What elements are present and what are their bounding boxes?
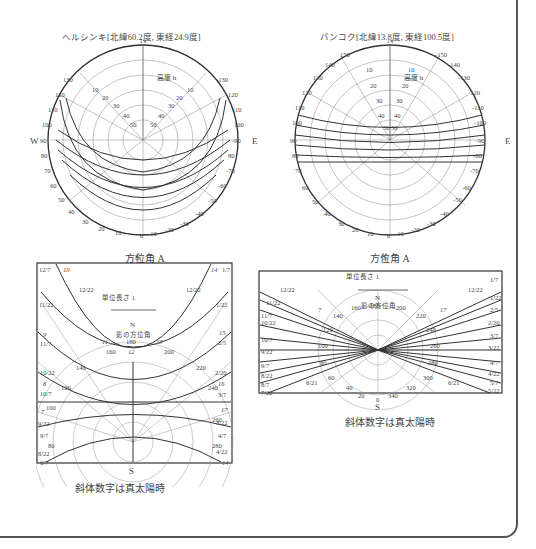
svg-text:10: 10	[187, 86, 194, 93]
svg-text:100: 100	[42, 121, 52, 128]
svg-text:100: 100	[46, 404, 56, 411]
svg-text:280: 280	[212, 442, 222, 449]
svg-text:10: 10	[92, 86, 99, 93]
svg-text:80: 80	[41, 152, 48, 159]
svg-text:-30: -30	[427, 220, 436, 227]
svg-text:140: 140	[333, 312, 343, 319]
svg-text:16: 16	[218, 380, 225, 387]
svg-text:-90: -90	[232, 137, 241, 144]
svg-text:2/20: 2/20	[488, 319, 500, 326]
svg-text:10/7: 10/7	[40, 390, 52, 397]
svg-text:-70: -70	[226, 167, 235, 174]
svg-text:110: 110	[295, 104, 305, 111]
svg-text:2/20: 2/20	[215, 369, 227, 376]
svg-text:80: 80	[320, 359, 327, 366]
svg-text:0: 0	[387, 232, 390, 239]
svg-text:1/7: 1/7	[490, 276, 499, 283]
svg-text:-90: -90	[476, 137, 485, 144]
svg-text:110: 110	[48, 106, 58, 113]
svg-text:9: 9	[43, 331, 47, 338]
svg-text:140: 140	[76, 364, 86, 371]
svg-text:10: 10	[366, 66, 373, 73]
bangkok-sunpath-diagram: N S W E 高度 h 150140130 120110100 908070 …	[290, 40, 530, 265]
svg-text:17: 17	[440, 306, 447, 313]
svg-text:3/7: 3/7	[490, 332, 499, 339]
svg-text:12/22: 12/22	[186, 286, 201, 293]
svg-text:4/22: 4/22	[216, 448, 228, 455]
svg-text:4/22: 4/22	[488, 370, 500, 377]
svg-text:-40: -40	[440, 210, 449, 217]
helsinki-north: N	[140, 40, 147, 45]
svg-text:240: 240	[208, 384, 218, 391]
helsinki-shadow-caption: 斜体数字は真太陽時	[75, 480, 165, 495]
svg-text:260: 260	[212, 416, 222, 423]
svg-text:240: 240	[426, 326, 436, 333]
svg-text:-10: -10	[148, 230, 157, 237]
svg-text:10/7: 10/7	[261, 336, 273, 343]
svg-text:-20: -20	[165, 226, 174, 233]
svg-text:-60: -60	[462, 184, 471, 191]
svg-text:7: 7	[318, 306, 322, 313]
svg-text:S: S	[129, 466, 134, 476]
svg-text:-130: -130	[216, 76, 228, 83]
svg-text:11: 11	[102, 338, 108, 345]
svg-text:50: 50	[383, 124, 390, 131]
svg-text:40: 40	[68, 208, 75, 215]
svg-text:E: E	[505, 136, 511, 146]
svg-text:-120: -120	[468, 89, 480, 96]
svg-text:5/7: 5/7	[490, 379, 499, 386]
svg-text:14: 14	[211, 266, 218, 273]
svg-text:4/7: 4/7	[490, 359, 499, 366]
svg-text:110: 110	[232, 106, 242, 113]
svg-text:90: 90	[290, 137, 297, 144]
svg-text:340: 340	[388, 392, 398, 399]
svg-text:180: 180	[126, 338, 136, 345]
svg-text:-140: -140	[448, 61, 460, 68]
svg-text:160: 160	[351, 304, 361, 311]
svg-text:5/22: 5/22	[488, 387, 500, 394]
svg-text:30: 30	[168, 102, 175, 109]
svg-text:3/7: 3/7	[218, 391, 227, 398]
svg-text:12/22: 12/22	[79, 286, 94, 293]
svg-text:20: 20	[102, 94, 109, 101]
svg-text:12/22: 12/22	[280, 286, 295, 293]
svg-text:80: 80	[48, 442, 55, 449]
svg-text:S: S	[375, 402, 380, 410]
svg-text:130: 130	[63, 76, 73, 83]
svg-text:100: 100	[234, 121, 244, 128]
svg-text:2/5: 2/5	[490, 306, 498, 313]
svg-text:220: 220	[416, 312, 426, 319]
svg-text:10/22: 10/22	[40, 369, 55, 376]
svg-text:120: 120	[302, 89, 312, 96]
svg-text:-40: -40	[195, 210, 204, 217]
svg-text:180: 180	[370, 302, 380, 309]
svg-text:8/7: 8/7	[261, 381, 270, 388]
svg-text:N: N	[375, 294, 380, 302]
svg-text:320: 320	[406, 384, 416, 391]
svg-text:8/22: 8/22	[38, 450, 50, 457]
svg-text:30: 30	[376, 97, 383, 104]
svg-text:80: 80	[292, 152, 299, 159]
svg-text:-110: -110	[472, 104, 484, 111]
svg-text:40: 40	[123, 112, 130, 119]
bangkok-shadow-caption: 斜体数字は真太陽時	[345, 414, 435, 429]
svg-text:10: 10	[63, 266, 70, 273]
svg-text:N: N	[387, 40, 394, 45]
svg-text:70: 70	[295, 167, 302, 174]
svg-text:-130: -130	[458, 74, 470, 81]
svg-text:10/22: 10/22	[261, 319, 276, 326]
svg-text:50: 50	[312, 198, 319, 205]
svg-text:120: 120	[323, 326, 333, 333]
svg-text:-60: -60	[218, 182, 227, 189]
svg-text:17: 17	[221, 406, 228, 413]
svg-text:11/22: 11/22	[266, 299, 281, 306]
svg-text:50: 50	[58, 196, 65, 203]
svg-text:120: 120	[55, 91, 65, 98]
svg-text:12: 12	[128, 348, 135, 355]
svg-text:W: W	[30, 136, 39, 146]
svg-text:高度 h: 高度 h	[157, 73, 177, 82]
svg-text:10: 10	[408, 66, 415, 73]
helsinki-sunpath-diagram: N S W E 高度 h 130120110 1009080 706050 40…	[30, 40, 270, 265]
svg-text:30: 30	[396, 97, 403, 104]
svg-text:160: 160	[106, 348, 116, 355]
